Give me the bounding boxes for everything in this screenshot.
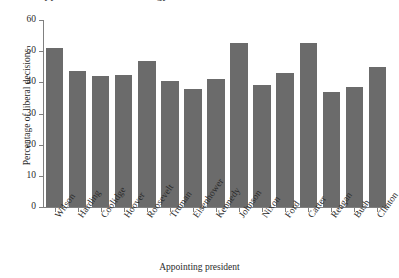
y-tick-label: 30 (27, 107, 37, 120)
y-tick-label: 60 (27, 13, 37, 26)
y-tick-label: 20 (27, 138, 37, 151)
x-axis-label: Appointing president (0, 262, 399, 272)
y-tick-40: 40 (0, 82, 43, 83)
y-tick-20: 20 (0, 145, 43, 146)
y-tick-60: 60 (0, 20, 43, 21)
bar-bush (346, 87, 364, 207)
y-tick-10: 10 (0, 176, 43, 177)
chart-title: Appointments and ideology (36, 0, 366, 2)
bar-clinton (369, 67, 387, 207)
bar-ford (276, 73, 294, 207)
bar-carter (300, 43, 318, 207)
bar-roosevelt (138, 61, 156, 207)
y-tick-50: 50 (0, 51, 43, 52)
bar-harding (69, 71, 87, 207)
y-tick-label: 0 (31, 200, 36, 213)
bar-johnson (230, 43, 248, 207)
y-tick-mark (39, 207, 43, 208)
y-tick-0: 0 (0, 207, 43, 208)
y-tick-label: 50 (27, 44, 37, 57)
y-tick-30: 30 (0, 114, 43, 115)
y-tick-label: 10 (27, 169, 37, 182)
bar-wilson (46, 48, 64, 207)
bar-reagan (323, 92, 341, 207)
y-tick-label: 40 (27, 75, 37, 88)
bar-chart-figure: Appointments and ideology Percentage of … (0, 0, 399, 278)
